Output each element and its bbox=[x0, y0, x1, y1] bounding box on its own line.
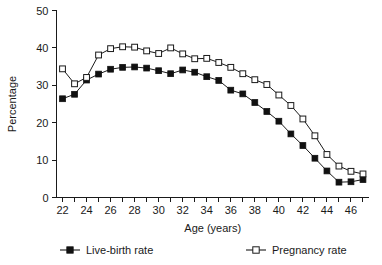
legend-label: Pregnancy rate bbox=[272, 244, 347, 256]
chart-container: 0102030405022242628303234363840424446 Ag… bbox=[0, 0, 382, 265]
data-point-live-birth-rate bbox=[168, 71, 174, 77]
data-point-pregnancy-rate bbox=[108, 46, 114, 52]
data-point-live-birth-rate bbox=[120, 64, 126, 70]
y-axis-tick-label: 10 bbox=[36, 154, 48, 166]
data-point-live-birth-rate bbox=[348, 179, 354, 185]
data-point-live-birth-rate bbox=[192, 69, 198, 75]
x-axis-tick-label: 26 bbox=[104, 204, 116, 216]
x-axis-tick-label: 36 bbox=[225, 204, 237, 216]
legend-marker bbox=[253, 247, 259, 253]
y-axis-tick-label: 0 bbox=[42, 192, 48, 204]
x-axis-tick-label: 22 bbox=[56, 204, 68, 216]
x-axis-tick-label: 32 bbox=[177, 204, 189, 216]
legend-label: Live-birth rate bbox=[86, 244, 153, 256]
data-point-live-birth-rate bbox=[288, 131, 294, 137]
legend-marker bbox=[67, 247, 73, 253]
data-point-live-birth-rate bbox=[276, 118, 282, 124]
chart-legend: Live-birth ratePregnancy rate bbox=[60, 244, 347, 256]
x-axis-tick-label: 42 bbox=[297, 204, 309, 216]
y-axis-tick-label: 30 bbox=[36, 79, 48, 91]
x-axis-tick-label: 44 bbox=[321, 204, 333, 216]
data-point-pregnancy-rate bbox=[180, 51, 186, 57]
axes: 0102030405022242628303234363840424446 bbox=[36, 5, 369, 216]
data-point-pregnancy-rate bbox=[324, 152, 330, 158]
data-point-pregnancy-rate bbox=[132, 44, 138, 50]
data-point-pregnancy-rate bbox=[120, 44, 126, 50]
data-point-live-birth-rate bbox=[180, 67, 186, 73]
y-axis-tick-label: 20 bbox=[36, 117, 48, 129]
x-axis-tick-label: 30 bbox=[153, 204, 165, 216]
data-point-live-birth-rate bbox=[252, 100, 258, 106]
data-point-pregnancy-rate bbox=[360, 171, 366, 177]
data-point-live-birth-rate bbox=[144, 65, 150, 71]
y-axis-tick-label: 50 bbox=[36, 5, 48, 17]
data-point-pregnancy-rate bbox=[240, 71, 246, 77]
data-point-pregnancy-rate bbox=[312, 133, 318, 139]
data-point-live-birth-rate bbox=[240, 91, 246, 97]
legend-item-1: Pregnancy rate bbox=[246, 244, 347, 256]
legend-item-0: Live-birth rate bbox=[60, 244, 153, 256]
data-point-pregnancy-rate bbox=[72, 81, 78, 87]
data-point-pregnancy-rate bbox=[264, 82, 270, 88]
y-axis-title: Percentage bbox=[6, 76, 18, 132]
series-line-pregnancy-rate bbox=[63, 47, 363, 174]
data-point-pregnancy-rate bbox=[60, 66, 66, 72]
data-point-pregnancy-rate bbox=[336, 163, 342, 169]
data-point-pregnancy-rate bbox=[168, 45, 174, 51]
data-point-live-birth-rate bbox=[72, 91, 78, 97]
data-point-pregnancy-rate bbox=[276, 92, 282, 98]
data-point-live-birth-rate bbox=[216, 78, 222, 84]
data-point-pregnancy-rate bbox=[204, 55, 210, 61]
data-point-live-birth-rate bbox=[108, 66, 114, 72]
data-point-live-birth-rate bbox=[204, 74, 210, 80]
series-line-live-birth-rate bbox=[63, 67, 363, 182]
data-point-live-birth-rate bbox=[264, 109, 270, 115]
data-point-pregnancy-rate bbox=[84, 75, 90, 81]
data-point-live-birth-rate bbox=[336, 179, 342, 185]
x-axis-tick-label: 34 bbox=[201, 204, 213, 216]
x-axis-tick-label: 28 bbox=[129, 204, 141, 216]
x-axis-tick-label: 24 bbox=[80, 204, 92, 216]
data-point-pregnancy-rate bbox=[252, 77, 258, 83]
data-point-pregnancy-rate bbox=[156, 51, 162, 57]
data-point-live-birth-rate bbox=[132, 64, 138, 70]
data-point-pregnancy-rate bbox=[192, 56, 198, 62]
data-point-pregnancy-rate bbox=[228, 64, 234, 70]
y-axis-tick-label: 40 bbox=[36, 42, 48, 54]
data-point-pregnancy-rate bbox=[300, 116, 306, 122]
data-point-pregnancy-rate bbox=[288, 103, 294, 109]
data-point-live-birth-rate bbox=[300, 143, 306, 149]
data-point-live-birth-rate bbox=[228, 87, 234, 93]
data-point-live-birth-rate bbox=[324, 168, 330, 174]
x-axis-tick-label: 38 bbox=[249, 204, 261, 216]
x-axis-title: Age (years) bbox=[184, 222, 241, 234]
data-point-live-birth-rate bbox=[96, 71, 102, 77]
data-point-live-birth-rate bbox=[360, 177, 366, 183]
x-axis-tick-label: 40 bbox=[273, 204, 285, 216]
data-point-pregnancy-rate bbox=[216, 60, 222, 66]
data-point-live-birth-rate bbox=[312, 155, 318, 161]
data-point-live-birth-rate bbox=[156, 68, 162, 74]
data-series bbox=[60, 44, 366, 185]
percentage-by-age-line-chart: 0102030405022242628303234363840424446 Ag… bbox=[0, 0, 382, 265]
data-point-pregnancy-rate bbox=[144, 48, 150, 54]
data-point-pregnancy-rate bbox=[96, 52, 102, 58]
data-point-pregnancy-rate bbox=[348, 168, 354, 174]
x-axis-tick-label: 46 bbox=[345, 204, 357, 216]
data-point-live-birth-rate bbox=[60, 96, 66, 102]
